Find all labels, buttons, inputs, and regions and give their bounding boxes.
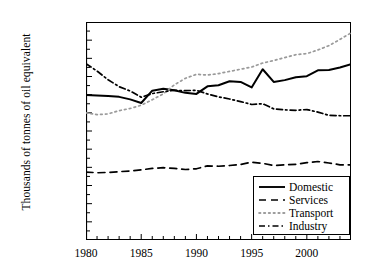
x-tick-label: 1990 [176, 248, 216, 260]
legend-label-services: Services [286, 194, 328, 206]
legend-label-industry: Industry [286, 220, 327, 232]
x-tick-label: 1980 [66, 248, 106, 260]
legend-item-domestic: Domestic [258, 180, 349, 193]
legend-item-services: Services [258, 193, 349, 206]
legend-key-domestic-icon [258, 181, 286, 193]
legend-key-industry-icon [258, 220, 286, 232]
legend-item-transport: Transport [258, 206, 349, 219]
series-line-domestic [86, 64, 351, 103]
legend-item-industry: Industry [258, 219, 349, 232]
x-tick-label: 1985 [121, 248, 161, 260]
y-tick-marks [87, 22, 92, 240]
legend-label-domestic: Domestic [286, 181, 333, 193]
data-series-group [86, 33, 351, 173]
chart-legend: Domestic Services Transport Industry [253, 176, 350, 235]
series-line-industry [86, 64, 351, 116]
x-tick-label: 2000 [287, 248, 327, 260]
legend-key-transport-icon [258, 207, 286, 219]
x-tick-label: 1995 [232, 248, 272, 260]
series-line-services [86, 162, 351, 173]
legend-label-transport: Transport [286, 207, 333, 219]
line-chart: Thousands of tonnes of oil equivalent 05… [0, 0, 388, 274]
legend-key-services-icon [258, 194, 286, 206]
